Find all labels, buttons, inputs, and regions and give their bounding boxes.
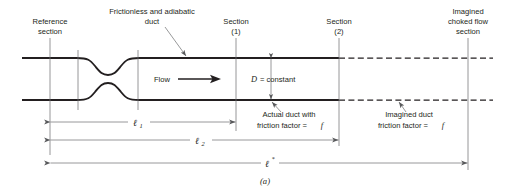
frictionless-duct-label-line1: Frictionless and adiabatic [109, 7, 195, 16]
diameter-symbol: D [250, 75, 257, 84]
section-2-label-line1: Section [326, 17, 351, 26]
ell2-label: ℓ [195, 136, 199, 146]
fanno-flow-figure: Reference section Frictionless and adiab… [0, 0, 516, 195]
ell2-subscript: 2 [201, 140, 205, 147]
frictionless-duct-leader [165, 27, 186, 56]
duct-bottom-wall [22, 83, 339, 100]
actual-duct-label-line2: friction factor = [257, 121, 308, 130]
frictionless-duct-label-line2: duct [145, 17, 160, 26]
reference-section-label-line1: Reference [32, 17, 67, 26]
ellstar-superscript: * [271, 155, 275, 162]
ell1-subscript: 1 [139, 122, 142, 129]
imagined-duct-friction-symbol: f [442, 121, 446, 130]
section-1-label-line1: Section [223, 17, 248, 26]
section-1-label-line2: (1) [231, 27, 241, 36]
actual-duct-friction-symbol: f [321, 121, 325, 130]
figure-caption: (a) [260, 176, 270, 186]
imagined-choked-label-line2: choked flow [448, 17, 489, 26]
imagined-duct-label-line2: friction factor = [378, 121, 429, 130]
diameter-value: = constant [260, 75, 296, 84]
imagined-choked-label-line3: section [456, 27, 480, 36]
diagram-canvas: Reference section Frictionless and adiab… [0, 0, 516, 195]
section-2-label-line2: (2) [334, 27, 344, 36]
flow-label: Flow [154, 75, 171, 84]
actual-duct-label-line1: Actual duct with [262, 110, 315, 119]
imagined-duct-label-line1: Imagined duct [385, 110, 434, 119]
ellstar-label: ℓ [265, 159, 269, 169]
reference-section-label-line2: section [38, 27, 62, 36]
ell1-label: ℓ [133, 118, 137, 128]
imagined-choked-label-line1: Imagined [452, 7, 483, 16]
duct-top-wall [22, 58, 339, 75]
